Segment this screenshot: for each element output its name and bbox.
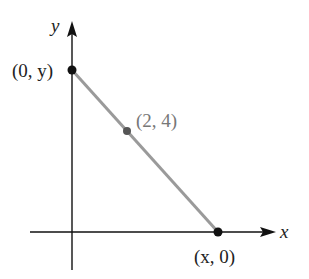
line-segment: [72, 70, 218, 232]
label-x-intercept: (x, 0): [194, 246, 235, 268]
label-y-intercept: (0, y): [12, 60, 53, 82]
x-axis-label: x: [279, 221, 289, 242]
point-x-intercept: [214, 228, 223, 237]
point-y-intercept: [68, 66, 77, 75]
point-given: [123, 127, 131, 135]
coordinate-diagram: y x (0, y) (2, 4) (x, 0): [0, 0, 309, 279]
axes: [30, 21, 276, 270]
y-axis-label: y: [49, 15, 60, 36]
label-given-point: (2, 4): [136, 110, 177, 132]
